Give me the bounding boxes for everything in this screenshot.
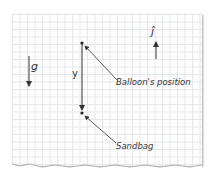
diagram-drawing <box>0 0 214 178</box>
sandbag-label: Sandbag <box>116 141 153 151</box>
gravity-label: g <box>31 60 38 73</box>
balloon-pointer-arrow-icon <box>85 46 117 80</box>
balloon-point <box>80 41 83 44</box>
unit-vector-label: ĵ <box>151 25 154 38</box>
balloon-label: Balloon's position <box>116 77 191 87</box>
sandbag-point <box>80 111 83 114</box>
sandbag-pointer-arrow-icon <box>85 116 116 143</box>
displacement-label: y <box>72 68 78 79</box>
